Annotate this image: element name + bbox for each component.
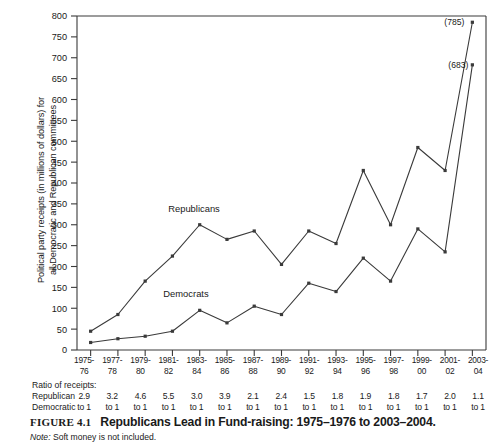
ratio-denominator-1975-76: to 1 (70, 402, 98, 412)
figure-number: FIGURE 4.1 (30, 416, 91, 428)
figure-note: Note: Soft money is not included. (30, 432, 156, 442)
data-point-democrats-1999-00 (416, 227, 419, 230)
y-tick-label-800: 800 (52, 11, 67, 21)
y-tick-label-300: 300 (52, 220, 67, 230)
ratio-row-label-republican: Republican (32, 391, 70, 401)
data-point-democrats-1989-90 (280, 313, 283, 316)
x-tick-label-bottom-1975-76: 76 (70, 366, 98, 376)
ratio-denominator-1977-78: to 1 (98, 402, 126, 412)
series-line-democrats (91, 65, 473, 343)
x-tick-label-1991-92: 1991- (295, 355, 323, 365)
x-tick-label-bottom-1985-86: 86 (211, 366, 239, 376)
x-tick-label-1983-84: 1983- (183, 355, 211, 365)
x-tick-label-1999-00: 1999- (408, 355, 436, 365)
y-tick-label-50: 50 (57, 325, 67, 335)
y-tick-label-0: 0 (62, 345, 67, 355)
ratio-denominator-1987-88: to 1 (239, 402, 267, 412)
figure-title: Republicans Lead in Fund-raising: 1975–1… (100, 415, 435, 429)
ratio-row-republican: Republican 2.93.24.65.53.03.92.12.41.51.… (32, 390, 492, 401)
series-line-republicans (91, 22, 473, 331)
annotation-republicans-2003-04: (785) (444, 17, 464, 27)
series-label-democrats: Democrats (163, 288, 209, 299)
data-point-republicans-1983-84 (198, 223, 201, 226)
data-point-democrats-1991-92 (307, 282, 310, 285)
ratio-denominator-1993-94: to 1 (323, 402, 351, 412)
x-tick-label-2001-02: 2001- (436, 355, 464, 365)
data-point-democrats-1981-82 (171, 330, 174, 333)
x-tick-label-bottom-1989-90: 90 (267, 366, 295, 376)
x-tick-label-1985-86: 1985- (211, 355, 239, 365)
ratio-denominator-1985-86: to 1 (211, 402, 239, 412)
note-label: Note: (30, 432, 51, 442)
data-point-democrats-1993-94 (334, 290, 337, 293)
data-point-republicans-1989-90 (280, 263, 283, 266)
ratio-numerator-1997-98: 1.8 (380, 391, 408, 401)
x-tick-label-bottom-1983-84: 84 (183, 366, 211, 376)
y-tick-label-700: 700 (52, 53, 67, 63)
x-tick-label-bottom-1999-00: 00 (408, 366, 436, 376)
ratio-block-title: Ratio of receipts: (32, 380, 96, 390)
ratio-row-democratic: Democratic to 1to 1to 1to 1to 1to 1to 1t… (32, 401, 492, 412)
data-point-democrats-1987-88 (253, 305, 256, 308)
data-point-republicans-1985-86 (225, 238, 228, 241)
ratio-row-label-democratic: Democratic (32, 402, 70, 412)
x-axis-tick-labels-top: 1975-1977-1979-1981-1983-1985-1987-1989-… (70, 355, 492, 365)
data-point-republicans-2001-02 (444, 169, 447, 172)
ratio-denominator-1991-92: to 1 (295, 402, 323, 412)
ratio-denominator-1981-82: to 1 (154, 402, 182, 412)
x-tick-label-bottom-1987-88: 88 (239, 366, 267, 376)
x-tick-label-1995-96: 1995- (351, 355, 379, 365)
ratio-numerator-1985-86: 3.9 (211, 391, 239, 401)
ratio-numerator-1977-78: 3.2 (98, 391, 126, 401)
y-tick-label-400: 400 (52, 178, 67, 188)
ratio-numerator-1991-92: 1.5 (295, 391, 323, 401)
data-point-republicans-1979-80 (144, 280, 147, 283)
data-point-democrats-1977-78 (116, 337, 119, 340)
x-tick-label-bottom-1993-94: 94 (323, 366, 351, 376)
y-tick-label-450: 450 (52, 158, 67, 168)
ratio-numerator-1989-90: 2.4 (267, 391, 295, 401)
ratio-numerator-1979-80: 4.6 (126, 391, 154, 401)
x-tick-label-1997-98: 1997- (380, 355, 408, 365)
ratio-denominator-1979-80: to 1 (126, 402, 154, 412)
y-tick-label-650: 650 (52, 74, 67, 84)
data-point-republicans-1981-82 (171, 254, 174, 257)
data-point-republicans-1991-92 (307, 229, 310, 232)
data-point-republicans-1987-88 (253, 229, 256, 232)
y-tick-label-200: 200 (52, 262, 67, 272)
data-point-democrats-2001-02 (444, 250, 447, 253)
x-tick-label-1977-78: 1977- (98, 355, 126, 365)
x-tick-label-1989-90: 1989- (267, 355, 295, 365)
ratio-denominator-1999-00: to 1 (408, 402, 436, 412)
ratio-denominator-1995-96: to 1 (351, 402, 379, 412)
x-tick-label-1975-76: 1975- (70, 355, 98, 365)
y-tick-label-150: 150 (52, 283, 67, 293)
x-tick-label-bottom-1977-78: 78 (98, 366, 126, 376)
x-axis-tick-labels-bottom: 767880828486889092949698000204 (70, 366, 492, 376)
ratio-values-democratic: to 1to 1to 1to 1to 1to 1to 1to 1to 1to 1… (70, 402, 492, 412)
ratio-denominator-2001-02: to 1 (436, 402, 464, 412)
data-point-republicans-1977-78 (116, 313, 119, 316)
ratio-numerator-1975-76: 2.9 (70, 391, 98, 401)
x-tick-label-bottom-2001-02: 02 (436, 366, 464, 376)
annotation-democrats-2003-04: (683) (448, 60, 468, 70)
ratio-numerator-1995-96: 1.9 (351, 391, 379, 401)
y-tick-label-600: 600 (52, 95, 67, 105)
x-tick-label-2003-04: 2003- (464, 355, 492, 365)
ratio-denominator-1983-84: to 1 (183, 402, 211, 412)
data-point-democrats-1985-86 (225, 321, 228, 324)
ratio-denominator-1989-90: to 1 (267, 402, 295, 412)
note-text: Soft money is not included. (53, 432, 156, 442)
x-tick-label-bottom-1997-98: 98 (380, 366, 408, 376)
ratio-numerator-2003-04: 1.1 (464, 391, 492, 401)
ratio-denominator-1997-98: to 1 (380, 402, 408, 412)
figure-caption: FIGURE 4.1 Republicans Lead in Fund-rais… (30, 415, 490, 429)
data-point-democrats-1975-76 (89, 341, 92, 344)
x-tick-label-1981-82: 1981- (154, 355, 182, 365)
y-tick-label-750: 750 (52, 32, 67, 42)
y-tick-label-250: 250 (52, 241, 67, 251)
x-tick-label-1993-94: 1993- (323, 355, 351, 365)
ratio-numerator-2001-02: 2.0 (436, 391, 464, 401)
series-label-republicans: Republicans (168, 203, 220, 214)
x-tick-label-bottom-2003-04: 04 (464, 366, 492, 376)
